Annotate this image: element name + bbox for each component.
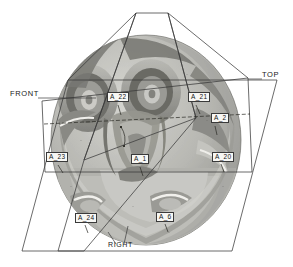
- datum-label-top: TOP: [262, 71, 279, 79]
- callout-a6[interactable]: A_6: [156, 212, 174, 222]
- model-canvas: [0, 0, 293, 267]
- datum-label-right: RIGHT: [108, 241, 133, 248]
- callout-a22[interactable]: A_22: [107, 92, 129, 102]
- callout-a1[interactable]: A_1: [131, 154, 149, 164]
- callout-a23[interactable]: A_23: [46, 152, 68, 162]
- callout-a21[interactable]: A_21: [188, 92, 210, 102]
- cad-viewport[interactable]: FRONT TOP RIGHT A_22 A_21 A_2 A_23 A_1 A…: [0, 0, 293, 267]
- callout-a2[interactable]: A_2: [211, 113, 229, 123]
- datum-label-front: FRONT: [10, 90, 39, 98]
- callout-a24[interactable]: A_24: [75, 213, 97, 223]
- callout-a20[interactable]: A_20: [212, 152, 234, 162]
